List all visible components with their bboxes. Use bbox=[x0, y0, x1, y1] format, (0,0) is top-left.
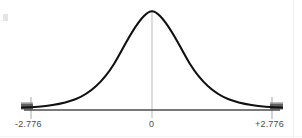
tick-label-center: 0 bbox=[149, 120, 154, 129]
tick-label-lower-critical: -2.776 bbox=[15, 120, 42, 129]
distribution-figure: -2.776 0 +2.776 bbox=[0, 0, 302, 138]
tick-label-upper-critical: +2.776 bbox=[255, 120, 284, 129]
right-edge-rule-artifact bbox=[293, 0, 294, 138]
distribution-plot bbox=[0, 0, 302, 138]
bottom-edge-rule-artifact bbox=[0, 136, 302, 137]
lower-tail-shaded-region-soft bbox=[21, 102, 33, 104]
top-left-scan-artifact bbox=[3, 14, 8, 21]
upper-tail-shaded-region-soft bbox=[270, 102, 283, 104]
